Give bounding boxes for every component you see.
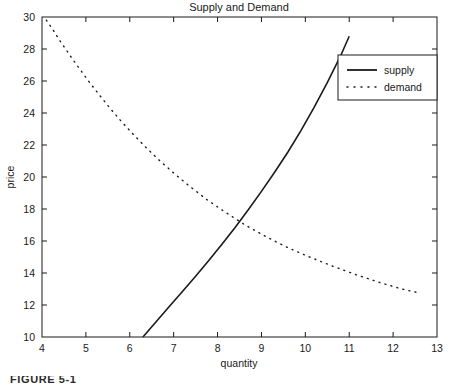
chart-title: Supply and Demand bbox=[189, 1, 289, 13]
x-tick-label: 6 bbox=[127, 342, 133, 354]
y-tick-label: 24 bbox=[23, 107, 35, 119]
x-tick-label: 5 bbox=[83, 342, 89, 354]
legend-label-demand: demand bbox=[384, 81, 422, 93]
x-tick-label: 9 bbox=[259, 342, 265, 354]
y-tick-label: 22 bbox=[23, 139, 35, 151]
y-tick-label: 10 bbox=[23, 331, 35, 343]
x-tick-label: 7 bbox=[171, 342, 177, 354]
chart-legend: supply demand bbox=[338, 55, 437, 100]
y-tick-label: 28 bbox=[23, 43, 35, 55]
x-axis-title: quantity bbox=[221, 357, 259, 369]
x-tick-label: 12 bbox=[387, 342, 399, 354]
y-tick-label: 26 bbox=[23, 75, 35, 87]
figure-caption: FIGURE 5-1 bbox=[10, 376, 210, 385]
legend-label-supply: supply bbox=[384, 64, 415, 76]
legend-box bbox=[338, 55, 437, 100]
y-tick-label: 16 bbox=[23, 235, 35, 247]
x-tick-label: 11 bbox=[344, 342, 355, 354]
y-tick-label: 30 bbox=[23, 11, 35, 23]
y-tick-label: 14 bbox=[23, 267, 35, 279]
y-axis-title: price bbox=[4, 165, 16, 188]
x-tick-label: 4 bbox=[39, 342, 45, 354]
x-tick-label: 10 bbox=[299, 342, 311, 354]
supply-and-demand-chart: Supply and Demand 45678910111213 1012141… bbox=[0, 0, 452, 386]
figure-container: Supply and Demand 45678910111213 1012141… bbox=[0, 0, 452, 386]
x-tick-label: 13 bbox=[431, 342, 443, 354]
y-tick-label: 12 bbox=[23, 299, 35, 311]
x-tick-label: 8 bbox=[215, 342, 221, 354]
y-tick-label: 20 bbox=[23, 171, 35, 183]
figure-caption-strip: FIGURE 5-1 bbox=[10, 376, 210, 386]
y-tick-label: 18 bbox=[23, 203, 35, 215]
